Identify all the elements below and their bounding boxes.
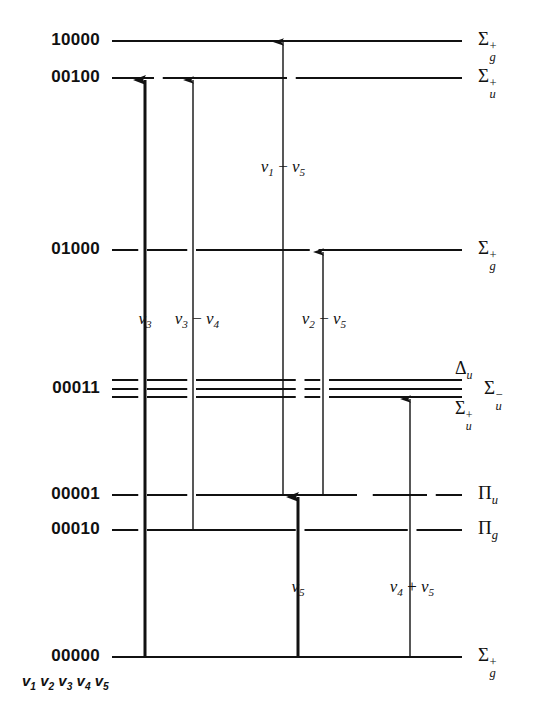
term-main: Σ bbox=[478, 237, 489, 258]
term-main: Π bbox=[478, 517, 492, 538]
level-label-01000: 01000 bbox=[51, 239, 100, 259]
term-symbol-sigma-u-minus: Σ−u bbox=[484, 377, 495, 400]
term-sub: u bbox=[467, 368, 473, 382]
term-sub: u bbox=[466, 419, 472, 434]
term-sub: g bbox=[492, 528, 498, 542]
level-label-10000: 10000 bbox=[51, 30, 100, 50]
level-label-00011: 00011 bbox=[52, 378, 100, 398]
term-sub: u bbox=[489, 87, 495, 102]
term-main: Σ bbox=[455, 398, 465, 418]
transition-label-nu3-nu4: ν3 − ν4 bbox=[175, 309, 219, 330]
term-symbol-sigma-u-plus: Σ+u bbox=[455, 398, 465, 419]
term-sub: u bbox=[492, 493, 498, 507]
level-label-00001: 00001 bbox=[51, 484, 100, 504]
term-symbol-00010: Πg bbox=[478, 517, 498, 543]
transition-label-nu4-plus-nu5: ν4 + ν5 bbox=[390, 577, 434, 598]
term-main: Π bbox=[478, 482, 492, 503]
quantum-number-caption: v1 v2 v3 v4 v5 bbox=[22, 672, 109, 692]
term-main: Σ bbox=[484, 377, 495, 398]
transition-label-nu3: ν3 bbox=[138, 309, 151, 330]
level-label-00100: 00100 bbox=[51, 67, 100, 87]
term-main: Δ bbox=[455, 358, 467, 378]
term-symbol-00000: Σ+g bbox=[478, 644, 489, 667]
term-symbol-00100: Σ+u bbox=[478, 65, 489, 88]
term-symbol-10000: Σ+g bbox=[478, 28, 489, 51]
term-sub: u bbox=[495, 399, 501, 414]
level-label-00000: 00000 bbox=[51, 646, 100, 666]
transition-arrows bbox=[145, 42, 410, 657]
transition-label-nu5: ν5 bbox=[291, 577, 304, 598]
term-sub: g bbox=[489, 666, 495, 681]
term-main: Σ bbox=[478, 65, 489, 86]
term-sub: g bbox=[489, 259, 495, 274]
term-main: Σ bbox=[478, 28, 489, 49]
term-sub: g bbox=[489, 50, 495, 65]
level-label-00010: 00010 bbox=[51, 519, 100, 539]
term-symbol-delta-u: Δu bbox=[455, 358, 473, 383]
term-main: Σ bbox=[478, 644, 489, 665]
term-symbol-01000: Σ+g bbox=[478, 237, 489, 260]
term-symbol-00001: Πu bbox=[478, 482, 498, 508]
transition-label-nu2-nu5: ν2 − ν5 bbox=[302, 309, 346, 330]
transition-label-nu1-nu5: ν1 − ν5 bbox=[261, 157, 305, 178]
